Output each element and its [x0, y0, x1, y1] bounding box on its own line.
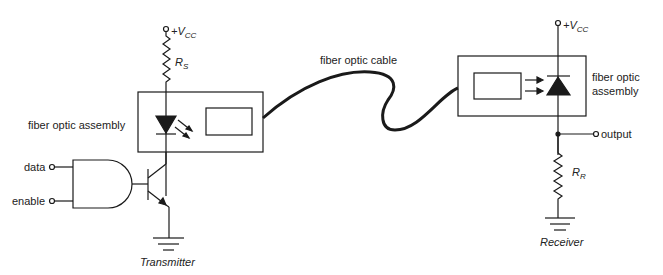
cable-label: fiber optic cable — [320, 54, 397, 66]
vcc-label-rx: +VCC — [563, 19, 589, 34]
optical-coupler-tx — [206, 108, 252, 135]
vcc-terminal-rx — [556, 21, 561, 26]
transmitter: +VCC RS fiber optic assembly data enable — [12, 25, 263, 268]
receiver-caption: Receiver — [540, 236, 585, 248]
enable-input-label: enable — [12, 195, 45, 207]
output-label: output — [601, 128, 632, 140]
resistor-rr-label: RR — [572, 166, 586, 181]
fiber-optic-assembly-tx — [138, 92, 263, 152]
light-emission-arrows-icon — [175, 120, 192, 138]
assembly-label-rx-line2: assembly — [592, 85, 639, 97]
output-terminal — [594, 132, 599, 137]
resistor-rs-icon — [163, 31, 170, 92]
assembly-label-tx: fiber optic assembly — [28, 119, 126, 131]
ground-icon-rx — [545, 218, 575, 230]
transmitter-caption: Transmitter — [140, 256, 196, 268]
light-reception-arrows-icon — [525, 77, 543, 94]
resistor-rs-label: RS — [175, 56, 189, 71]
assembly-label-rx-line1: fiber optic — [592, 71, 640, 83]
receiver: +VCC fiber optic assembly output RR — [458, 19, 640, 248]
fiber-optic-assembly-rx — [458, 56, 586, 116]
and-gate-icon — [73, 160, 132, 208]
fiber-optic-cable — [263, 72, 458, 130]
vcc-terminal-tx — [164, 27, 169, 32]
circuit-diagram: +VCC RS fiber optic assembly data enable — [0, 0, 663, 275]
resistor-rr-icon — [554, 134, 562, 218]
photodiode-icon — [547, 77, 570, 95]
led-icon — [156, 116, 176, 133]
vcc-label-tx: +VCC — [171, 25, 197, 40]
optical-coupler-rx — [474, 73, 521, 99]
data-input-label: data — [24, 161, 46, 173]
data-input-terminal — [50, 165, 55, 170]
ground-icon-tx — [153, 238, 184, 250]
enable-input-terminal — [50, 199, 55, 204]
